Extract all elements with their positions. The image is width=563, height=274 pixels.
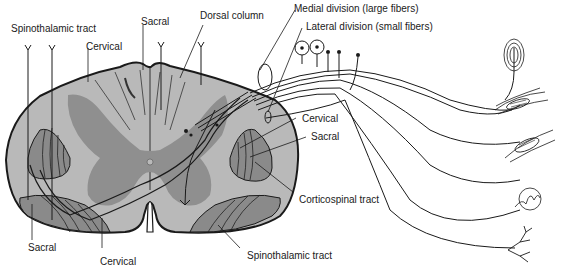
- ventral-fissure: [147, 202, 153, 233]
- label-cervical-bottom: Cervical: [100, 256, 136, 267]
- label-spinothalamic-tract-bottom: Spinothalamic tract: [247, 250, 332, 261]
- golgi-tendon-organ-icon: [505, 130, 555, 162]
- label-sacral-right: Sacral: [311, 131, 339, 142]
- label-corticospinal-tract: Corticospinal tract: [299, 194, 379, 205]
- label-spinothalamic-tract-top: Spinothalamic tract: [11, 23, 96, 34]
- label-dorsal-column: Dorsal column: [200, 10, 264, 21]
- diagram-graphic: [0, 0, 563, 274]
- central-canal: [147, 159, 153, 165]
- small-cell-body: [326, 50, 330, 54]
- label-lateral-division: Lateral division (small fibers): [306, 21, 433, 32]
- spinal-cord-diagram: Spinothalamic tract Cervical Sacral Dors…: [0, 0, 563, 274]
- meissner-corpuscle-icon: [515, 188, 541, 210]
- label-sacral-bottom: Sacral: [28, 242, 56, 253]
- pacinian-corpuscle-icon: [504, 39, 524, 100]
- free-nerve-ending-icon: [508, 226, 532, 262]
- nerve-fiber-1: [250, 70, 512, 110]
- label-medial-division: Medial division (large fibers): [294, 3, 419, 14]
- label-cervical-right: Cervical: [302, 113, 338, 124]
- label-sacral-top: Sacral: [141, 16, 169, 27]
- label-cervical-top: Cervical: [86, 41, 122, 52]
